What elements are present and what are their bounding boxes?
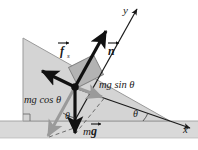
diagram-canvas: y x n f s m g mg sin θ mg cos θ θ [0,0,198,150]
y-axis-label: y [122,4,128,16]
weight-label-m: m [83,125,91,137]
origin-point [71,83,79,91]
mg-sin-theta-label: mg sin θ [99,79,135,90]
normal-force-label-text: n [108,44,115,58]
friction-force-label-text: f [60,44,65,58]
weight-label-g: g [90,124,97,138]
x-axis-label: x [182,123,188,135]
theta-label-block: θ [65,110,70,121]
friction-force-label-subscript: s [67,52,70,60]
normal-force-label: n [108,41,119,58]
theta-label-incline-base: θ [133,108,138,119]
physics-diagram-figure: y x n f s m g mg sin θ mg cos θ θ [0,0,198,150]
friction-force-label: f s [58,41,70,60]
mg-cos-theta-label: mg cos θ [24,94,61,105]
